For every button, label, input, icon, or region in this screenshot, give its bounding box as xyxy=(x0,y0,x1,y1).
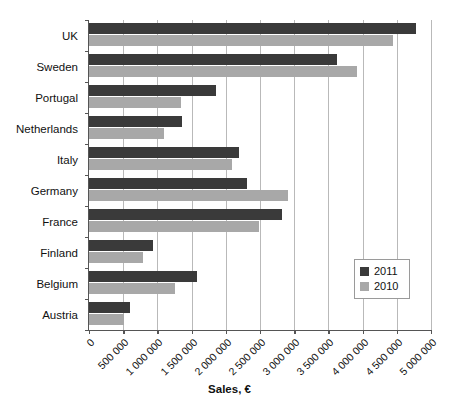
y-axis-tick xyxy=(85,268,89,269)
bar-2010-austria xyxy=(89,314,124,325)
bar-2010-italy xyxy=(89,159,232,170)
y-axis-label-italy: Italy xyxy=(0,154,78,166)
y-axis-tick xyxy=(85,330,89,331)
x-axis-tick xyxy=(294,330,295,334)
bar-group xyxy=(89,144,431,175)
y-axis-label-portugal: Portugal xyxy=(0,92,78,104)
x-axis-tick xyxy=(260,330,261,334)
bar-2011-netherlands xyxy=(89,116,182,127)
bar-2011-france xyxy=(89,209,282,220)
chart-legend: 2011 2010 xyxy=(354,259,410,299)
y-axis-tick xyxy=(85,20,89,21)
bar-group xyxy=(89,113,431,144)
bar-2010-uk xyxy=(89,35,393,46)
bar-group xyxy=(89,20,431,51)
bar-2010-netherlands xyxy=(89,128,164,139)
bar-2010-france xyxy=(89,221,259,232)
y-axis-label-germany: Germany xyxy=(0,185,78,197)
y-axis-tick xyxy=(85,113,89,114)
x-axis-tick xyxy=(397,330,398,334)
x-axis-tick xyxy=(431,330,432,334)
legend-label-2010: 2010 xyxy=(374,281,398,292)
y-axis-label-belgium: Belgium xyxy=(0,278,78,290)
bar-chart: UKSwedenPortugalNetherlandsItalyGermanyF… xyxy=(0,0,459,410)
y-axis-tick xyxy=(85,82,89,83)
bar-2011-italy xyxy=(89,147,239,158)
bar-2011-sweden xyxy=(89,54,337,65)
y-axis-category-labels: UKSwedenPortugalNetherlandsItalyGermanyF… xyxy=(0,20,84,330)
x-axis-title: Sales, € xyxy=(0,383,459,395)
bar-2011-austria xyxy=(89,302,130,313)
x-axis-tick xyxy=(192,330,193,334)
x-axis-tick xyxy=(328,330,329,334)
x-axis-tick xyxy=(123,330,124,334)
legend-item-2010: 2010 xyxy=(360,279,404,294)
bar-group xyxy=(89,175,431,206)
bar-2010-finland xyxy=(89,252,143,263)
y-axis-label-france: France xyxy=(0,216,78,228)
gridline xyxy=(431,20,432,330)
legend-label-2011: 2011 xyxy=(374,266,398,277)
y-axis-label-netherlands: Netherlands xyxy=(0,123,78,135)
y-axis-tick xyxy=(85,144,89,145)
bar-group xyxy=(89,299,431,330)
x-axis-tick xyxy=(363,330,364,334)
bar-2011-belgium xyxy=(89,271,197,282)
y-axis-label-sweden: Sweden xyxy=(0,61,78,73)
legend-swatch-2010 xyxy=(360,282,369,291)
bar-2010-portugal xyxy=(89,97,181,108)
bar-2011-uk xyxy=(89,23,416,34)
bar-2010-belgium xyxy=(89,283,175,294)
x-axis-tick xyxy=(89,330,90,334)
bar-2011-finland xyxy=(89,240,153,251)
bar-2010-sweden xyxy=(89,66,357,77)
x-axis-tick xyxy=(157,330,158,334)
x-axis-tick xyxy=(226,330,227,334)
bar-group xyxy=(89,51,431,82)
y-axis-label-austria: Austria xyxy=(0,309,78,321)
y-axis-tick xyxy=(85,175,89,176)
legend-swatch-2011 xyxy=(360,267,369,276)
bar-group xyxy=(89,206,431,237)
bar-group xyxy=(89,82,431,113)
y-axis-tick xyxy=(85,237,89,238)
y-axis-label-uk: UK xyxy=(0,30,78,42)
bar-2010-germany xyxy=(89,190,288,201)
bar-2011-portugal xyxy=(89,85,216,96)
y-axis-tick xyxy=(85,299,89,300)
y-axis-tick xyxy=(85,51,89,52)
bar-2011-germany xyxy=(89,178,247,189)
x-axis-tick-label: 0 xyxy=(0,336,96,410)
y-axis-tick xyxy=(85,206,89,207)
legend-item-2011: 2011 xyxy=(360,264,404,279)
y-axis-label-finland: Finland xyxy=(0,247,78,259)
